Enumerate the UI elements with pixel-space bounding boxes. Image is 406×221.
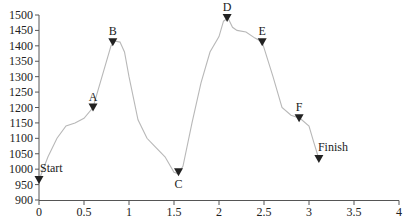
y-tick-label: 900 <box>15 193 33 207</box>
marker-label: E <box>259 24 266 38</box>
marker-label: C <box>174 177 182 191</box>
x-tick-label: 0.5 <box>77 205 92 219</box>
x-tick-label: 3.5 <box>347 205 362 219</box>
y-tick-label: 1450 <box>9 23 33 37</box>
elevation-chart: 9009501000105011001150120012501300135014… <box>0 0 406 221</box>
marker-c: C <box>174 168 183 191</box>
marker-label: F <box>296 100 303 114</box>
triangle-down-icon <box>314 155 323 163</box>
marker-label: D <box>223 0 232 14</box>
x-tick-label: 2.5 <box>257 205 272 219</box>
marker-label: Start <box>40 161 63 175</box>
y-tick-label: 1300 <box>9 70 33 84</box>
y-tick-label: 1050 <box>9 147 33 161</box>
marker-label: Finish <box>318 140 348 154</box>
y-tick-label: 1000 <box>9 162 33 176</box>
triangle-down-icon <box>295 114 304 122</box>
y-tick-label: 1350 <box>9 54 33 68</box>
x-tick-label: 1.5 <box>167 205 182 219</box>
x-axis-ticks: 00.511.522.533.54 <box>36 201 402 220</box>
y-tick-label: 1500 <box>9 8 33 22</box>
waypoint-markers: StartABCDEFFinish <box>35 0 348 191</box>
marker-label: B <box>109 24 117 38</box>
marker-finish: Finish <box>314 140 348 163</box>
x-tick-label: 4 <box>396 205 402 219</box>
y-tick-label: 950 <box>15 178 33 192</box>
y-tick-label: 1200 <box>9 101 33 115</box>
y-tick-label: 1250 <box>9 85 33 99</box>
x-tick-label: 3 <box>306 205 312 219</box>
triangle-down-icon <box>258 38 267 46</box>
elevation-line <box>39 18 319 180</box>
marker-label: A <box>89 90 98 104</box>
triangle-down-icon <box>108 38 117 46</box>
triangle-down-icon <box>35 176 44 184</box>
marker-e: E <box>258 24 267 46</box>
x-tick-label: 0 <box>36 205 42 219</box>
y-axis-ticks: 9009501000105011001150120012501300135014… <box>9 8 39 207</box>
marker-f: F <box>295 100 304 122</box>
x-tick-label: 1 <box>126 205 132 219</box>
marker-a: A <box>89 90 98 112</box>
y-tick-label: 1400 <box>9 39 33 53</box>
y-tick-label: 1100 <box>9 131 33 145</box>
marker-d: D <box>223 0 232 22</box>
triangle-down-icon <box>89 104 98 112</box>
marker-b: B <box>108 24 117 46</box>
y-tick-label: 1150 <box>9 116 33 130</box>
x-tick-label: 2 <box>216 205 222 219</box>
